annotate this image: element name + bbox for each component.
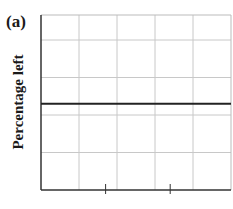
chart <box>0 0 233 209</box>
